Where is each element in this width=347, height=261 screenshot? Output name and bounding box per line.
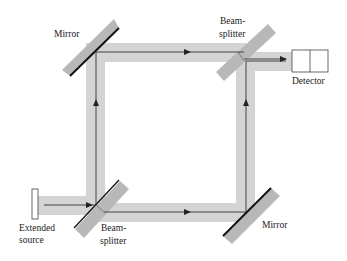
output-beam-band xyxy=(246,52,292,71)
label-mirror-top: Mirror xyxy=(54,29,80,39)
interferometer-diagram: Mirror Beam- splitter Detector Extended … xyxy=(0,0,347,261)
label-beamsplitter-bottom-2: splitter xyxy=(100,236,127,246)
right-beam-band xyxy=(236,52,255,222)
label-beamsplitter-top-1: Beam- xyxy=(220,16,245,26)
label-source-1: Extended xyxy=(19,223,55,233)
label-mirror-bottom: Mirror xyxy=(262,220,288,230)
bottom-beam-band xyxy=(96,203,255,222)
detector xyxy=(292,50,328,72)
top-beam-band xyxy=(86,43,246,62)
extended-source xyxy=(32,189,38,219)
label-beamsplitter-top-2: splitter xyxy=(219,29,246,39)
label-source-2: source xyxy=(19,235,44,245)
left-beam-band xyxy=(86,52,105,212)
label-detector: Detector xyxy=(292,76,326,86)
label-beamsplitter-bottom-1: Beam- xyxy=(101,223,126,233)
